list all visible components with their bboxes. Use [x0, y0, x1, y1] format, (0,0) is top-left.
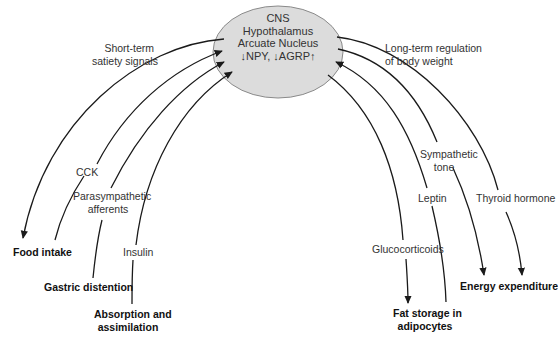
insulin-label: Insulin — [123, 246, 153, 259]
gastric-distention-label: Gastric distention — [44, 281, 133, 294]
arrow-leptin-upper — [336, 62, 427, 188]
arrow-sympathetic-lower — [453, 168, 484, 275]
food-intake-label: Food intake — [13, 246, 72, 259]
line-glucocorticoids-upper — [328, 75, 403, 240]
leptin-label: Leptin — [418, 192, 447, 205]
energy-expenditure-label: Energy expenditure — [460, 280, 558, 293]
parasympathetic-afferents-label: Parasympathetic afferents — [73, 190, 143, 215]
arrow-cck-upper — [97, 51, 222, 164]
line-parasympathetic-lower — [93, 220, 102, 278]
parasympathetic-line-2: afferents — [73, 203, 143, 216]
absorption-line-2: assimilation — [94, 321, 162, 334]
cns-label: CNS Hypothalamus Arcuate Nucleus ↓NPY, ↓… — [213, 12, 343, 62]
fat-storage-line-2: adipocytes — [393, 320, 457, 333]
thyroid-hormone-label: Thyroid hormone — [476, 192, 555, 205]
cck-label: CCK — [76, 166, 98, 179]
cns-line-1: CNS — [213, 12, 343, 25]
long-term-line-2: of body weight — [385, 55, 482, 68]
arrow-thyroid-lower — [506, 212, 522, 275]
long-term-regulation-label: Long-term regulation of body weight — [385, 42, 482, 67]
absorption-assimilation-label: Absorption and assimilation — [94, 308, 162, 333]
sympathetic-line-2: tone — [420, 161, 468, 174]
fat-storage-line-1: Fat storage in — [393, 307, 457, 320]
glucocorticoids-label: Glucocorticoids — [372, 243, 444, 256]
long-term-line-1: Long-term regulation — [385, 42, 482, 55]
fat-storage-label: Fat storage in adipocytes — [393, 307, 457, 332]
sympathetic-line-1: Sympathetic — [420, 148, 468, 161]
cns-line-2: Hypothalamus — [213, 25, 343, 38]
short-term-line-1: Short-term — [92, 42, 154, 55]
cns-line-4: ↓NPY, ↓AGRP↑ — [213, 50, 343, 63]
short-term-satiety-label: Short-term satiety signals — [92, 42, 154, 67]
short-term-line-2: satiety signals — [92, 55, 154, 68]
parasympathetic-line-1: Parasympathetic — [73, 190, 143, 203]
sympathetic-tone-label: Sympathetic tone — [420, 148, 468, 173]
absorption-line-1: Absorption and — [94, 308, 162, 321]
arrow-insulin-upper — [136, 72, 232, 245]
arrow-glucocorticoids-lower — [406, 259, 408, 303]
cns-line-3: Arcuate Nucleus — [213, 37, 343, 50]
